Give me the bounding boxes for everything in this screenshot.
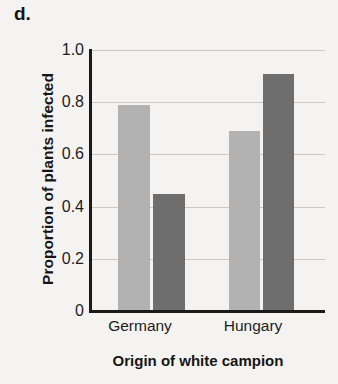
panel-label: d. bbox=[14, 3, 31, 25]
plot-area bbox=[91, 50, 325, 311]
y-tick-0.2: 0.2 bbox=[40, 251, 84, 267]
y-tick-0.6: 0.6 bbox=[40, 146, 84, 162]
y-tick-0.8: 0.8 bbox=[40, 94, 84, 110]
gridline-1.0 bbox=[91, 50, 325, 51]
x-axis-title: Origin of white campion bbox=[62, 352, 334, 369]
bar-hungary-dark bbox=[263, 74, 294, 312]
x-axis-line bbox=[89, 310, 325, 313]
bar-germany-light bbox=[118, 105, 150, 311]
y-tick-1.0: 1.0 bbox=[40, 42, 84, 58]
y-axis-line bbox=[89, 49, 92, 313]
x-tick-hungary: Hungary bbox=[208, 317, 298, 335]
figure-panel: d. Proportion of plants infected 1.0 0.8… bbox=[0, 0, 338, 384]
bar-germany-dark bbox=[153, 194, 185, 311]
y-tick-0.4: 0.4 bbox=[40, 199, 84, 215]
y-tick-0: 0 bbox=[40, 303, 84, 319]
bar-hungary-light bbox=[229, 131, 260, 311]
x-tick-germany: Germany bbox=[95, 317, 185, 335]
y-axis-tick-labels: 1.0 0.8 0.6 0.4 0.2 0 bbox=[38, 0, 84, 384]
